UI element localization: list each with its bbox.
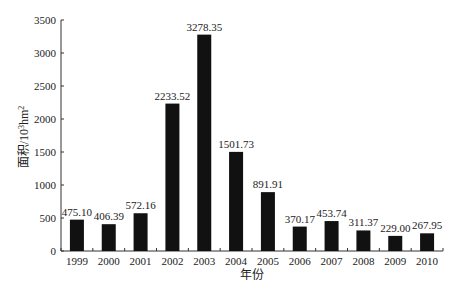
y-tick-label: 1500: [34, 146, 57, 158]
value-labels: 475.10406.39572.162233.523278.351501.738…: [62, 21, 443, 234]
value-label-2000: 406.39: [94, 210, 125, 222]
bar-2004: [229, 152, 243, 251]
x-tick-label: 2002: [161, 255, 183, 267]
y-tick-label: 2500: [34, 80, 57, 92]
x-tick-label: 2007: [321, 255, 344, 267]
bar-chart: 0500100015002000250030003500 19992000200…: [0, 0, 460, 296]
y-tick-label: 500: [40, 212, 57, 224]
value-label-1999: 475.10: [62, 206, 93, 218]
x-tick-label: 2004: [225, 255, 248, 267]
y-axis: 0500100015002000250030003500: [34, 14, 64, 257]
x-tick-label: 2005: [257, 255, 280, 267]
bar-2008: [356, 230, 370, 251]
value-label-2008: 311.37: [348, 216, 378, 228]
value-label-2003: 3278.35: [186, 21, 222, 33]
x-tick-label: 1999: [66, 255, 89, 267]
bar-2005: [261, 192, 275, 251]
x-tick-label: 2009: [384, 255, 407, 267]
x-tick-label: 2008: [352, 255, 375, 267]
bar-2009: [388, 236, 402, 251]
x-axis-title: 年份: [240, 268, 264, 282]
bar-1999: [70, 220, 84, 251]
y-axis-title: 面积/103hm2: [17, 106, 31, 169]
x-axis: 1999200020012002200320042005200620072008…: [61, 248, 443, 267]
bar-2002: [165, 104, 179, 251]
bar-2001: [134, 213, 148, 251]
value-label-2006: 370.17: [285, 213, 316, 225]
y-tick-label: 3000: [34, 47, 57, 59]
y-tick-label: 1000: [34, 179, 57, 191]
x-tick-label: 2006: [289, 255, 312, 267]
y-tick-label: 0: [51, 245, 57, 257]
bar-2010: [420, 233, 434, 251]
x-tick-label: 2010: [416, 255, 439, 267]
value-label-2002: 2233.52: [155, 90, 191, 102]
x-tick-label: 2000: [98, 255, 121, 267]
x-tick-label: 2001: [130, 255, 152, 267]
value-label-2001: 572.16: [125, 199, 156, 211]
bar-2003: [197, 35, 211, 251]
value-label-2005: 891.91: [253, 178, 283, 190]
value-label-2004: 1501.73: [218, 138, 254, 150]
value-label-2007: 453.74: [316, 207, 347, 219]
value-label-2009: 229.00: [380, 222, 411, 234]
bar-2000: [102, 224, 116, 251]
y-tick-label: 2000: [34, 113, 57, 125]
bar-2007: [325, 221, 339, 251]
value-label-2010: 267.95: [412, 219, 443, 231]
y-tick-label: 3500: [34, 14, 57, 26]
x-tick-label: 2003: [193, 255, 216, 267]
bar-2006: [293, 227, 307, 251]
